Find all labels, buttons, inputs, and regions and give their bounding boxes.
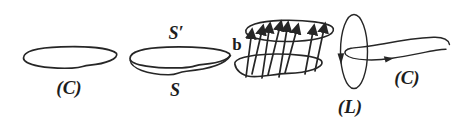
- label-surface-s-prime: S′: [168, 23, 183, 43]
- flux-tube-top-opening: [246, 20, 334, 41]
- surface-s-outline: [130, 47, 230, 68]
- flux-tube-drawing: [235, 20, 334, 78]
- flux-arrow: [305, 26, 314, 74]
- flux-arrow: [252, 26, 263, 74]
- figure-canvas: (C) S′ S b (L) (C): [0, 0, 457, 125]
- loop-c-right-curve: [345, 37, 450, 60]
- label-loop-l: (L): [338, 96, 362, 118]
- label-field-b: b: [232, 35, 241, 54]
- label-surface-s: S: [170, 80, 180, 100]
- loop-c-left-curve: [24, 47, 117, 69]
- physics-figure: (C) S′ S b (L) (C): [0, 0, 457, 125]
- surface-s-drawing: [130, 47, 231, 75]
- label-loop-c-left: (C): [56, 77, 81, 99]
- loop-c-left-drawing: [24, 47, 117, 69]
- loop-c-direction-arrow: [384, 56, 394, 62]
- flux-arrow: [246, 30, 252, 77]
- label-loop-c-right: (C): [394, 67, 419, 89]
- flux-arrow: [315, 24, 325, 71]
- loop-l-direction-arrow: [338, 53, 345, 64]
